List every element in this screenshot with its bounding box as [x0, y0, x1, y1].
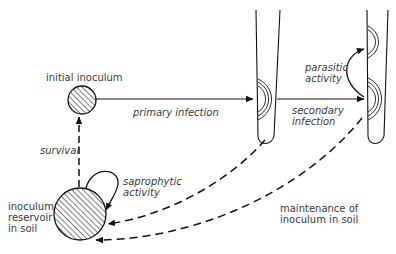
parasitic-label-line1: parasitic [305, 62, 348, 73]
reservoir-label-line2: reservoir [8, 212, 52, 223]
reservoir-label-line1: inoculum [8, 201, 54, 212]
saprophytic-label-line1: saprophytic [123, 176, 182, 187]
maintenance-label-line1: maintenance of [280, 203, 358, 214]
initial-inoculum-label: initial inoculum [46, 72, 123, 83]
reservoir-label-line3: in soil [8, 223, 37, 234]
saprophytic-label-line2: activity [123, 187, 160, 198]
initial-inoculum-node [68, 86, 96, 114]
maintenance-label-line2: inoculum in soil [280, 214, 358, 225]
survival-label: survival [40, 145, 79, 156]
secondary-label-line1: secondary [292, 105, 344, 116]
primary-infection-label: primary infection [133, 107, 219, 118]
root-2 [367, 10, 388, 144]
parasitic-label-line2: activity [305, 73, 342, 84]
secondary-label-line2: infection [292, 116, 335, 127]
parasitic-activity-arrow [347, 49, 364, 97]
inoculum-reservoir-node [54, 188, 106, 240]
root-1 [256, 10, 280, 144]
